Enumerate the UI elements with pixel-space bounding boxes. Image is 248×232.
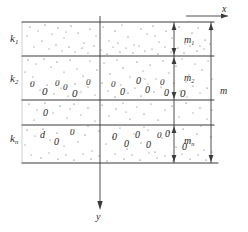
grain-glyph: 0 bbox=[160, 78, 165, 87]
arrow-m-bottom bbox=[209, 155, 214, 162]
arrow-m1-bottom bbox=[172, 48, 177, 55]
x-axis-label: x bbox=[222, 4, 226, 14]
grain-glyph: 0 bbox=[157, 131, 162, 140]
x-axis bbox=[186, 13, 228, 18]
grain-glyph: 0 bbox=[42, 86, 48, 97]
y-axis-label: y bbox=[96, 212, 100, 222]
grain-glyph: 0 bbox=[43, 108, 48, 118]
arrow-m1-top bbox=[172, 23, 177, 30]
grain-glyph: 0 bbox=[120, 87, 125, 97]
grain-glyph: 0 bbox=[70, 128, 75, 137]
layer-label-k1: k1 bbox=[10, 33, 18, 46]
layer-label-kn: kn bbox=[10, 133, 18, 146]
inner-dimension-line bbox=[172, 22, 177, 163]
arrow-m-top bbox=[209, 23, 214, 30]
layered-medium-diagram bbox=[0, 0, 248, 232]
grain-glyph: 0 bbox=[180, 88, 186, 99]
grain-glyph: d bbox=[40, 130, 45, 140]
grain-glyph: 0 bbox=[136, 76, 141, 86]
grain-glyph: 0 bbox=[111, 80, 116, 89]
grain-glyph: 0 bbox=[63, 83, 68, 92]
outer-dimension-line bbox=[209, 22, 214, 163]
grain-glyph: 0 bbox=[55, 79, 60, 88]
grain-glyph: 0 bbox=[124, 139, 129, 149]
grain-glyph: 0 bbox=[86, 78, 91, 87]
thickness-label-mn: mn bbox=[184, 136, 194, 147]
grain-glyph: 0 bbox=[112, 132, 117, 142]
grain-glyph: 0 bbox=[54, 137, 59, 147]
grain-glyph: 0 bbox=[30, 80, 35, 89]
grain-glyph: 0 bbox=[146, 140, 151, 150]
grain-glyph: 0 bbox=[165, 129, 170, 139]
total-thickness-label-m: m bbox=[220, 86, 227, 96]
arrow-mn-bottom bbox=[172, 155, 177, 162]
grain-glyph: 0 bbox=[145, 85, 150, 95]
thickness-label-m2: m2 bbox=[184, 73, 194, 84]
arrow-m2-bottom bbox=[172, 92, 177, 99]
grain-glyph: 0 bbox=[72, 88, 78, 99]
arrow-mn-top bbox=[172, 126, 177, 133]
grain-glyph: 0 bbox=[164, 88, 169, 98]
thickness-label-m1: m1 bbox=[184, 35, 194, 46]
arrow-m2-top bbox=[172, 57, 177, 64]
grain-glyph: 0 bbox=[135, 130, 140, 140]
layer-label-k2: k2 bbox=[10, 73, 18, 86]
y-axis bbox=[97, 16, 102, 210]
